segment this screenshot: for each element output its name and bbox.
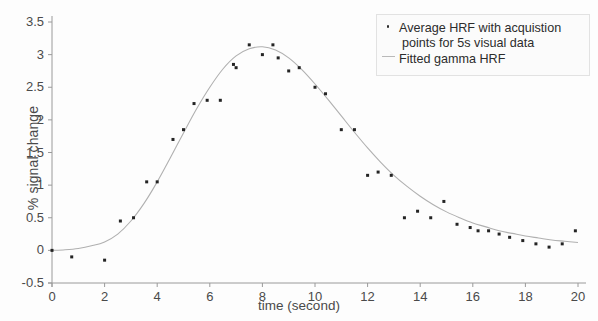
legend-entry-fitted-gamma-label: Fitted gamma HRF bbox=[399, 52, 589, 67]
y-tick-label: 0.5 bbox=[0, 210, 44, 225]
x-axis-label: time (second) bbox=[0, 298, 598, 313]
y-tick-label: -0.5 bbox=[0, 275, 44, 290]
chart-legend: Average HRF with acquistion points for 5… bbox=[376, 14, 590, 76]
y-tick-label: 3 bbox=[0, 47, 44, 62]
legend-line-1: Average HRF with acquistion bbox=[399, 21, 561, 35]
hrf-chart-figure: % signal change -0.500.511.522.533.50246… bbox=[0, 0, 598, 321]
fitted-gamma-hrf-curve bbox=[52, 47, 578, 251]
fitted-line-marker-icon bbox=[377, 52, 399, 57]
legend-entry-average-hrf: Average HRF with acquistion points for 5… bbox=[377, 21, 589, 50]
y-tick-label: 3.5 bbox=[0, 14, 44, 29]
legend-line-2: points for 5s visual data bbox=[399, 36, 585, 51]
y-tick-label: 2.5 bbox=[0, 79, 44, 94]
legend-entry-fitted-gamma: Fitted gamma HRF bbox=[377, 52, 589, 67]
average-hrf-scatter-points bbox=[51, 43, 577, 261]
legend-entry-average-hrf-label: Average HRF with acquistion points for 5… bbox=[399, 21, 589, 50]
y-tick-label: 1.5 bbox=[0, 145, 44, 160]
y-tick-label: 2 bbox=[0, 112, 44, 127]
y-tick-label: 1 bbox=[0, 177, 44, 192]
y-tick-label: 0 bbox=[0, 242, 44, 257]
scatter-dot-marker-icon bbox=[377, 21, 399, 28]
